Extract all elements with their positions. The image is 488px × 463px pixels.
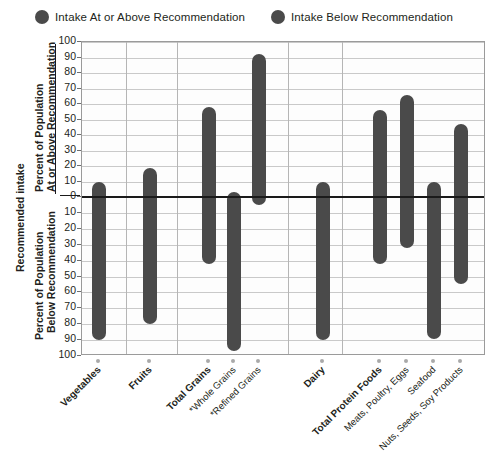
bar-nuts-seeds-soy-products[interactable] — [454, 124, 468, 284]
gridline — [82, 73, 484, 74]
y-tick-above-20: 20 — [54, 158, 76, 170]
y-tick-above-70: 70 — [54, 81, 76, 93]
y-tick-below-20: 20 — [54, 221, 76, 233]
circle-marker-icon — [35, 10, 49, 24]
y-tick-above-0: 0 — [54, 189, 76, 201]
legend-label-below: Intake Below Recommendation — [291, 11, 453, 23]
x-tick-marker — [147, 359, 151, 363]
x-label-dairy: Dairy — [301, 364, 326, 389]
y-tick-above-90: 90 — [54, 50, 76, 62]
x-tick-marker — [404, 359, 408, 363]
y-tick-below-30: 30 — [54, 237, 76, 249]
chart-legend: Intake At or Above Recommendation Intake… — [0, 6, 488, 28]
bar-meats-poultry-eggs[interactable] — [400, 95, 414, 248]
gridline — [82, 58, 484, 59]
bar-whole-grains[interactable] — [227, 192, 241, 351]
bar-total-protein-foods[interactable] — [373, 110, 387, 264]
bar-vegetables[interactable] — [92, 182, 106, 341]
y-tick-above-100: 100 — [54, 34, 76, 46]
zero-baseline — [82, 196, 484, 198]
legend-item-at-or-above: Intake At or Above Recommendation — [35, 10, 245, 24]
y-tick-mark — [77, 355, 81, 356]
y-tick-below-90: 90 — [54, 332, 76, 344]
x-tick-marker — [231, 359, 235, 363]
group-separator — [126, 42, 127, 354]
bar-total-grains[interactable] — [202, 107, 216, 264]
bar-seafood[interactable] — [427, 182, 441, 339]
x-tick-marker — [320, 359, 324, 363]
plot-area — [81, 41, 485, 355]
x-tick-marker — [431, 359, 435, 363]
x-label-fruits: Fruits — [126, 364, 153, 391]
chart-root: Intake At or Above Recommendation Intake… — [0, 0, 488, 463]
y-tick-below-80: 80 — [54, 316, 76, 328]
y-tick-above-10: 10 — [54, 174, 76, 186]
x-tick-marker — [256, 359, 260, 363]
y-tick-below-100: 100 — [54, 348, 76, 360]
y-tick-below-10: 10 — [54, 205, 76, 217]
gridline — [82, 324, 484, 325]
axis-upper-label-line1: Percent of Population — [33, 83, 45, 192]
y-tick-above-40: 40 — [54, 127, 76, 139]
circle-marker-icon — [271, 10, 285, 24]
gridline — [82, 135, 484, 136]
x-label-vegetables: Vegetables — [58, 364, 103, 409]
gridline — [82, 120, 484, 121]
y-tick-above-60: 60 — [54, 96, 76, 108]
gridline — [82, 151, 484, 152]
y-tick-below-50: 50 — [54, 269, 76, 281]
gridline — [82, 340, 484, 341]
group-separator — [288, 42, 289, 354]
legend-label-at-or-above: Intake At or Above Recommendation — [55, 11, 245, 23]
axis-lower-label-line1: Percent of Population — [33, 231, 45, 340]
x-tick-marker — [458, 359, 462, 363]
y-tick-above-80: 80 — [54, 65, 76, 77]
y-tick-above-50: 50 — [54, 112, 76, 124]
y-tick-above-30: 30 — [54, 143, 76, 155]
bar-refined-grains[interactable] — [252, 54, 266, 205]
gridline — [82, 166, 484, 167]
legend-item-below: Intake Below Recommendation — [271, 10, 453, 24]
y-tick-below-70: 70 — [54, 300, 76, 312]
y-tick-below-60: 60 — [54, 284, 76, 296]
gridline — [82, 89, 484, 90]
bar-fruits[interactable] — [143, 168, 157, 325]
y-tick-below-40: 40 — [54, 253, 76, 265]
x-tick-marker — [206, 359, 210, 363]
group-separator — [342, 42, 343, 354]
gridline — [82, 42, 484, 43]
axis-outer-label: Recommended intake — [14, 163, 26, 272]
x-tick-marker — [377, 359, 381, 363]
gridline — [82, 104, 484, 105]
group-separator — [177, 42, 178, 354]
x-tick-marker — [96, 359, 100, 363]
bar-dairy[interactable] — [316, 182, 330, 341]
